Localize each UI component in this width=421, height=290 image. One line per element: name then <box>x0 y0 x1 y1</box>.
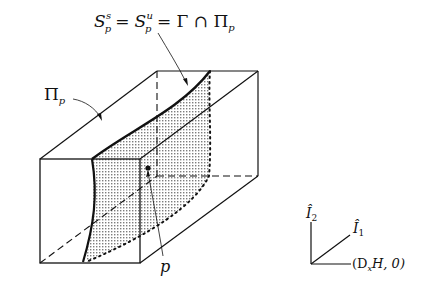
arrowhead <box>183 78 188 86</box>
axis-i2-label: Î2 <box>305 204 317 223</box>
point-p <box>145 165 150 170</box>
axis-i1 <box>311 235 350 264</box>
plane-label-leader <box>73 99 101 118</box>
axis-i1-label: Î1 <box>352 219 364 238</box>
point-label: p <box>160 257 170 276</box>
plane-label: Πp <box>44 84 66 106</box>
surface-label: Sps=Spu= Γ ∩ Πp <box>94 10 235 34</box>
arrowhead <box>97 113 102 121</box>
surface-label-leader <box>158 33 186 82</box>
phase-space-diagram: Sps=Spu= Γ ∩ Πp Πp p Î2 Î1 (DxH, 0) <box>0 0 421 290</box>
axis-horizontal-label: (DxH, 0) <box>352 256 405 273</box>
